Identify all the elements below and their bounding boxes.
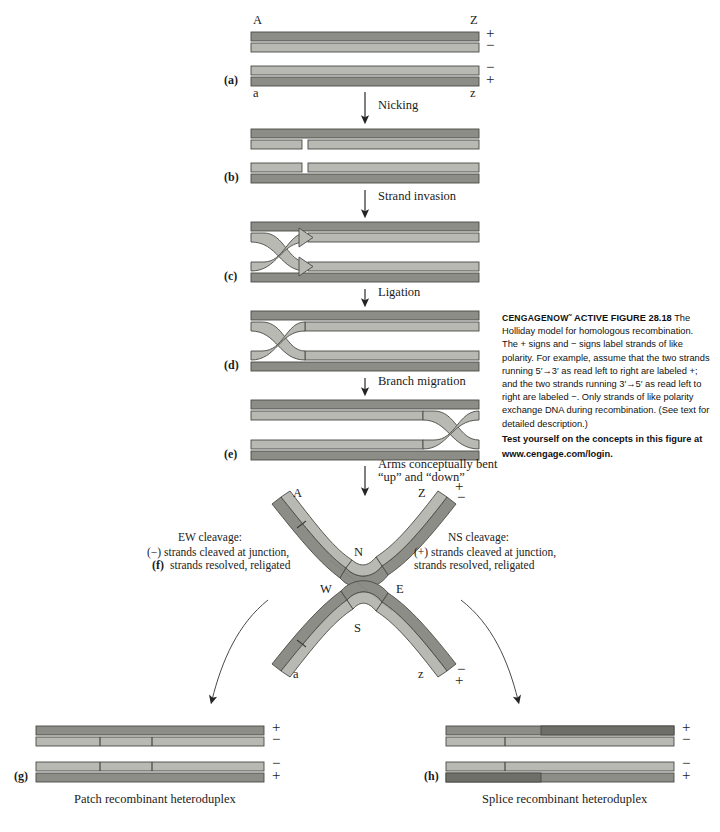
step-label-ligation: Ligation [378,286,420,299]
panel-b-nicked-duplexes [251,129,479,183]
ns-cleavage-line1: (+) strands cleaved at junction, [414,546,556,558]
ns-cleavage-line2: strands resolved, religated [414,559,534,571]
caption-test-line1: Test yourself on the concepts in this fi… [502,433,710,446]
sign-plus-h-bot: + [682,768,690,784]
junction-end-a: a [293,668,299,681]
panel-label-c: (c) [224,270,237,283]
step-label-branch-migration: Branch migration [378,375,466,388]
junction-arm-se [376,593,456,677]
panel-label-f: (f) [152,559,164,572]
junction-end-z: z [418,668,424,681]
ew-cleavage-line2: strands resolved, religated [170,559,290,571]
panel-d-ligated-junction [251,311,479,371]
caption-active-figure: ACTIVE FIGURE 28.18 [574,313,672,323]
panel-label-b: (b) [224,171,239,184]
sign-minus-a-top: − [486,38,494,54]
panel-label-g: (g) [14,770,28,783]
step-label-nicking: Nicking [378,99,418,112]
panel-h-splice-heteroduplex [446,726,674,782]
end-label-A: A [253,14,262,27]
junction-sign-minus-top: − [457,490,465,506]
end-label-z: z [470,87,476,100]
panel-label-e: (e) [224,448,237,461]
junction-end-A: A [293,487,302,500]
compass-label-west: W [320,583,332,596]
end-label-a: a [253,87,259,100]
caption-test-line2: www.cengage.com/login. [502,448,710,461]
holliday-model-figure: A Z a z + − − + (a) (b) (c) (d) (e) (f) … [0,0,720,832]
figure-caption: CENGAGENOW˜ ACTIVE FIGURE 28.18 The Holl… [502,312,710,461]
panel-c-strand-invasion [251,222,479,282]
panel-e-branch-migrated [251,400,479,460]
end-label-Z: Z [470,14,478,27]
compass-label-north: N [354,546,363,559]
result-caption-patch: Patch recombinant heteroduplex [74,793,236,806]
resolution-arrows [212,600,518,700]
bend-note-line2: “up” and “down” [378,471,465,484]
sign-minus-h-top: − [682,732,690,748]
sign-plus-g-bot: + [272,768,280,784]
ew-cleavage-line1: (−) strands cleaved at junction, [147,546,289,558]
panel-g-patch-heteroduplex [36,726,264,782]
junction-arm-sw [272,591,353,677]
step-label-strand-invasion: Strand invasion [378,190,456,203]
result-caption-splice: Splice recombinant heteroduplex [482,793,647,806]
compass-label-south: S [354,622,361,635]
caption-brand: CENGAGENOW˜ [502,313,572,323]
panel-a-duplexes [251,32,479,86]
panel-label-a: (a) [224,74,238,87]
junction-end-Z: Z [418,487,426,500]
panel-label-d: (d) [224,359,239,372]
sign-minus-g-top: − [272,732,280,748]
panel-label-h: (h) [424,770,439,783]
caption-body: The Holliday model for homologous recomb… [502,313,710,429]
ew-cleavage-title: EW cleavage: [178,531,242,543]
holliday-junction-x [272,491,456,677]
junction-sign-plus-bot: + [455,673,463,689]
sign-plus-a-bot: + [486,72,494,88]
compass-label-east: E [396,583,404,596]
ns-cleavage-title: NS cleavage: [448,531,509,543]
